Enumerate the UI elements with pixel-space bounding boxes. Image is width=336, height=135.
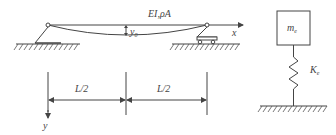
beam-properties-label: EI,ρA: [147, 8, 172, 19]
ground-hatch-icon: [258, 106, 327, 112]
beam-equivalent-sdof-diagram: y0 EI,ρA x: [0, 0, 336, 135]
spring-label: Ke: [309, 64, 320, 76]
pin-support-icon: [14, 23, 80, 50]
deflection-indicator: [124, 25, 128, 36]
y-axis-label: y: [42, 120, 48, 131]
equivalent-spring: [289, 45, 298, 106]
left-span-label: L/2: [74, 83, 88, 94]
right-span-label: L/2: [156, 83, 170, 94]
deflection-label: y0: [129, 26, 137, 38]
roller-support-icon: [170, 23, 240, 50]
diagram-canvas: y0 EI,ρA x: [0, 0, 336, 135]
x-axis-label: x: [231, 27, 237, 38]
dimension-lines: [48, 72, 207, 115]
